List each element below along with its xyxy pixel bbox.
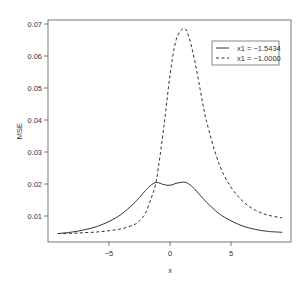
y-tick-label: 0.02: [27, 180, 42, 189]
y-tick-label: 0.01: [27, 212, 42, 221]
x-axis: −505: [105, 242, 233, 258]
y-tick-label: 0.07: [27, 20, 42, 29]
y-tick-label: 0.04: [27, 116, 42, 125]
legend-label-dashed: x1 = −1.0000: [237, 54, 281, 63]
x-tick-label: 0: [168, 249, 172, 258]
y-tick-label: 0.05: [27, 84, 42, 93]
y-axis-title: MSE: [15, 123, 24, 139]
y-axis: 0.010.020.030.040.050.060.07: [27, 20, 48, 221]
x-tick-label: −5: [105, 249, 114, 258]
y-tick-label: 0.06: [27, 52, 42, 61]
x-axis-title: x: [168, 266, 172, 275]
legend-label-solid: x1 = −1.5434: [237, 44, 281, 53]
y-tick-label: 0.03: [27, 148, 42, 157]
x-tick-label: 5: [229, 249, 233, 258]
legend: x1 = −1.5434 x1 = −1.0000: [212, 41, 281, 65]
mse-line-chart: 0.010.020.030.040.050.060.07 −505 MSE x …: [0, 0, 304, 289]
series-line-solid: [58, 182, 282, 234]
